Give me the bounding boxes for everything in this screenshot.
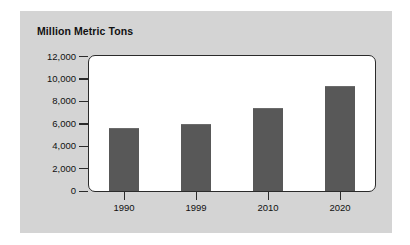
y-axis: 02,0004,0006,0008,00010,00012,000 xyxy=(0,0,88,245)
y-axis-tick-label: 12,000 xyxy=(47,51,76,63)
x-axis-tick-label: 2020 xyxy=(329,202,350,213)
bar-1999[interactable] xyxy=(181,124,211,191)
bar-slot xyxy=(232,55,304,191)
y-axis-tick-mark xyxy=(79,101,88,102)
bars-layer xyxy=(88,55,376,191)
x-axis: 1990199920102020 xyxy=(88,191,376,236)
x-axis-tick-label: 2010 xyxy=(257,202,278,213)
bar-1990[interactable] xyxy=(109,128,139,191)
bar-2010[interactable] xyxy=(253,108,283,191)
x-axis-tick-mark xyxy=(340,191,341,200)
x-axis-tick: 1990 xyxy=(88,191,160,236)
x-axis-tick-label: 1990 xyxy=(113,202,134,213)
x-axis-tick: 2010 xyxy=(232,191,304,236)
y-axis-tick-label: 6,000 xyxy=(52,118,76,130)
x-axis-tick-mark xyxy=(196,191,197,200)
bar-slot xyxy=(160,55,232,191)
bar-2020[interactable] xyxy=(325,86,355,191)
y-axis-tick-label: 8,000 xyxy=(52,95,76,107)
y-axis-tick-mark xyxy=(79,168,88,169)
bar-chart-figure: Million Metric Tons 02,0004,0006,0008,00… xyxy=(0,0,410,245)
y-axis-tick-mark xyxy=(79,191,88,192)
y-axis-tick-label: 4,000 xyxy=(52,140,76,152)
x-axis-tick-mark xyxy=(268,191,269,200)
x-axis-tick: 2020 xyxy=(304,191,376,236)
x-axis-tick: 1999 xyxy=(160,191,232,236)
x-axis-tick-mark xyxy=(124,191,125,200)
y-axis-tick-mark xyxy=(79,123,88,124)
y-axis-tick-label: 2,000 xyxy=(52,163,76,175)
bar-slot xyxy=(88,55,160,191)
bar-slot xyxy=(304,55,376,191)
x-axis-tick-label: 1999 xyxy=(185,202,206,213)
y-axis-tick-mark xyxy=(79,146,88,147)
y-axis-tick-mark xyxy=(79,78,88,79)
y-axis-tick-mark xyxy=(79,56,88,57)
y-axis-tick-label: 10,000 xyxy=(47,73,76,85)
y-axis-tick-label: 0 xyxy=(71,185,76,197)
